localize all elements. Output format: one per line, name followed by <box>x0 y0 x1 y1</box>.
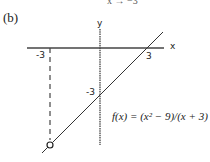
x-tick-3: 3 <box>146 51 152 61</box>
open-circle-hole <box>47 142 53 148</box>
graph <box>0 0 210 162</box>
y-tick-neg3: -3 <box>86 87 95 97</box>
formula-label: f(x) = (x² − 9)/(x + 3) <box>112 110 208 122</box>
y-axis-label: y <box>97 18 102 28</box>
x-tick-neg3: -3 <box>36 50 45 60</box>
x-axis-label: x <box>170 41 175 51</box>
